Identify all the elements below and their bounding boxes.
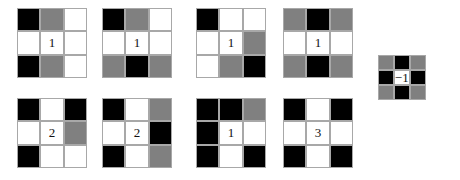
grid-cell — [149, 8, 172, 31]
grid-cell — [330, 55, 353, 78]
grid-cell — [196, 8, 219, 31]
grid-cell — [196, 31, 219, 54]
figure-canvas: 1 1 1 1 −1 2 2 1 3 — [0, 0, 460, 180]
grid-cell — [378, 55, 394, 70]
pattern-grid-3: 1 — [196, 8, 266, 78]
grid-cell — [196, 55, 219, 78]
grid-cell — [283, 145, 306, 168]
grid-cell — [64, 8, 87, 31]
grid-cell — [17, 8, 40, 31]
grid-cell — [149, 145, 172, 168]
grid-cell: 1 — [219, 31, 242, 54]
grid-cell — [378, 70, 394, 85]
grid-cell — [102, 145, 125, 168]
grid-cell — [64, 98, 87, 121]
grid-cell — [64, 55, 87, 78]
grid-cell — [64, 145, 87, 168]
grid-cell — [283, 31, 306, 54]
grid-cell — [243, 98, 266, 121]
grid-cell — [243, 31, 266, 54]
pattern-grid-2: 1 — [102, 8, 172, 78]
grid-cell — [149, 98, 172, 121]
grid-cell — [330, 98, 353, 121]
grid-value-label: −1 — [395, 71, 409, 84]
pattern-grid-8: 1 — [196, 98, 266, 168]
grid-value-label: 1 — [228, 126, 235, 139]
grid-cell — [306, 55, 329, 78]
grid-cell — [40, 55, 63, 78]
grid-value-label: 1 — [315, 36, 322, 49]
grid-cell — [149, 55, 172, 78]
grid-cell — [219, 8, 242, 31]
grid-cell — [17, 121, 40, 144]
grid-cell — [125, 55, 148, 78]
pattern-grid-7: 2 — [102, 98, 172, 168]
grid-cell — [243, 121, 266, 144]
grid-value-label: 2 — [49, 126, 56, 139]
grid-cell — [40, 145, 63, 168]
grid-cell — [219, 145, 242, 168]
grid-cell — [102, 98, 125, 121]
grid-cell — [102, 121, 125, 144]
grid-value-label: 1 — [49, 36, 56, 49]
grid-cell: 2 — [125, 121, 148, 144]
grid-value-label: 2 — [134, 126, 141, 139]
grid-cell — [219, 98, 242, 121]
grid-cell — [196, 121, 219, 144]
grid-cell — [243, 55, 266, 78]
grid-cell — [330, 8, 353, 31]
grid-cell — [17, 98, 40, 121]
grid-cell — [394, 55, 410, 70]
grid-cell: 3 — [306, 121, 329, 144]
grid-cell — [283, 8, 306, 31]
grid-cell — [243, 8, 266, 31]
grid-cell — [102, 55, 125, 78]
grid-cell — [64, 121, 87, 144]
grid-cell — [306, 8, 329, 31]
grid-cell — [149, 31, 172, 54]
grid-value-label: 1 — [134, 36, 141, 49]
grid-value-label: 1 — [228, 36, 235, 49]
grid-cell — [243, 145, 266, 168]
grid-cell — [330, 31, 353, 54]
pattern-grid-1: 1 — [17, 8, 87, 78]
grid-cell — [17, 31, 40, 54]
grid-cell: 1 — [219, 121, 242, 144]
grid-cell — [196, 145, 219, 168]
pattern-grid-9: 3 — [283, 98, 353, 168]
grid-cell — [102, 8, 125, 31]
grid-cell — [394, 85, 410, 100]
grid-cell — [283, 98, 306, 121]
grid-cell: −1 — [394, 70, 410, 85]
grid-cell — [330, 121, 353, 144]
grid-cell — [40, 8, 63, 31]
pattern-grid-4: 1 — [283, 8, 353, 78]
grid-cell: 1 — [306, 31, 329, 54]
grid-cell — [196, 98, 219, 121]
grid-cell — [283, 121, 306, 144]
grid-cell: 1 — [40, 31, 63, 54]
grid-value-label: 3 — [315, 126, 322, 139]
grid-cell — [17, 55, 40, 78]
grid-cell — [125, 8, 148, 31]
grid-cell — [219, 55, 242, 78]
grid-cell — [125, 98, 148, 121]
grid-cell — [17, 145, 40, 168]
grid-cell — [410, 70, 426, 85]
grid-cell — [306, 145, 329, 168]
grid-cell — [378, 85, 394, 100]
grid-cell — [40, 98, 63, 121]
grid-cell — [410, 85, 426, 100]
pattern-grid-6: 2 — [17, 98, 87, 168]
grid-cell — [306, 98, 329, 121]
grid-cell — [64, 31, 87, 54]
grid-cell — [330, 145, 353, 168]
grid-cell — [125, 145, 148, 168]
pattern-grid-5: −1 — [378, 55, 426, 100]
grid-cell: 2 — [40, 121, 63, 144]
grid-cell — [102, 31, 125, 54]
grid-cell: 1 — [125, 31, 148, 54]
grid-cell — [410, 55, 426, 70]
grid-cell — [283, 55, 306, 78]
grid-cell — [149, 121, 172, 144]
